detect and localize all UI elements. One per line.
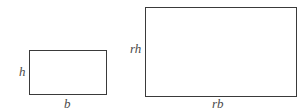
large-rectangle <box>145 7 297 97</box>
large-rectangle-height-label: rh <box>130 42 141 55</box>
small-rectangle <box>29 50 107 95</box>
small-rectangle-height-label: h <box>19 65 26 78</box>
large-rectangle-base-label: rb <box>212 97 224 110</box>
small-rectangle-base-label: b <box>64 97 71 110</box>
